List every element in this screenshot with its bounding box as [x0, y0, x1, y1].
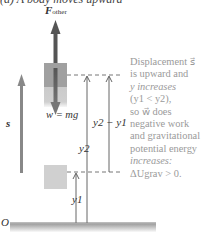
origin-label: O: [1, 216, 9, 228]
force-other-arrow: [51, 20, 61, 63]
y2-minus-y1-label: y2 − y1: [93, 116, 127, 128]
lower-block: [44, 165, 67, 189]
force-subscript: other: [52, 8, 66, 16]
description-line: and gravitational: [130, 130, 204, 142]
weight-label: w = mg: [46, 109, 78, 120]
description-text: Displacement s⃗ is upward and y increase…: [130, 56, 204, 180]
force-other-label: Fother: [45, 4, 67, 16]
displacement-label: s: [6, 117, 10, 129]
description-line: increases:: [130, 155, 204, 167]
description-line: (y1 < y2),: [130, 93, 204, 105]
y2-label: y2: [79, 142, 89, 154]
description-line: ΔUgrav > 0.: [130, 168, 204, 180]
description-line: Displacement s⃗: [130, 56, 204, 68]
description-line: negative work: [130, 118, 204, 130]
description-line: so w⃗ does: [130, 106, 204, 118]
description-line: potential energy: [130, 143, 204, 155]
description-line: y increases: [130, 81, 204, 93]
displacement-arrow: [18, 74, 26, 173]
y1-label: y1: [72, 193, 82, 205]
ground: [10, 223, 156, 233]
description-line: is upward and: [130, 68, 204, 80]
